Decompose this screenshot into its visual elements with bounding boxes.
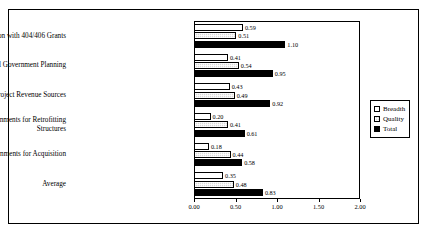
legend-item-quality: Quality xyxy=(374,114,405,124)
bar-value-label: 0.49 xyxy=(237,92,248,99)
bar-value-label: 0.41 xyxy=(230,121,241,128)
bar-quality xyxy=(194,32,236,39)
category-label: Financial Aid to Local Governments for A… xyxy=(0,150,66,159)
bar-total xyxy=(194,130,245,137)
bar-value-label: 0.41 xyxy=(230,54,241,61)
bar-breadth xyxy=(194,24,243,31)
legend-label-total: Total xyxy=(383,125,397,133)
x-axis-tick-label: 2.00 xyxy=(354,203,365,211)
bar-value-label: 0.43 xyxy=(232,83,243,90)
legend-item-total: Total xyxy=(374,124,405,134)
bar-value-label: 1.10 xyxy=(287,41,298,48)
bar-value-label: 0.48 xyxy=(236,181,247,188)
category-label: Average xyxy=(0,180,66,189)
category-label: Financial Aid to Local Governments for R… xyxy=(0,116,66,133)
x-axis-tick xyxy=(236,199,237,202)
legend-item-breadth: Breadth xyxy=(374,104,405,114)
bar-value-label: 0.18 xyxy=(211,143,222,150)
x-axis-tick-label: 1.50 xyxy=(313,203,324,211)
bar-breadth xyxy=(194,172,223,179)
bar-breadth xyxy=(194,83,230,90)
legend-swatch-quality xyxy=(374,116,380,122)
bar-value-label: 0.61 xyxy=(247,130,258,137)
legend-swatch-total xyxy=(374,126,380,132)
bar-value-label: 0.58 xyxy=(244,159,255,166)
x-axis-tick-label: 0.50 xyxy=(230,203,241,211)
x-axis-tick-label: 0.00 xyxy=(188,203,199,211)
chart-container: Finance Mitigation with 404/406 GrantsFi… xyxy=(8,9,419,224)
bar-value-label: 0.54 xyxy=(241,62,252,69)
category-label: Financial Aid for Local Government Plann… xyxy=(0,61,66,70)
x-axis-tick-label: 1.00 xyxy=(271,203,282,211)
bar-total xyxy=(194,41,285,48)
bar-total xyxy=(194,189,263,196)
category-label: Develop Planning and Project Revenue Sou… xyxy=(0,91,66,100)
bar-total xyxy=(194,100,270,107)
bar-quality xyxy=(194,92,235,99)
x-axis: 0.000.501.001.502.00 xyxy=(194,199,360,217)
bar-value-label: 0.92 xyxy=(272,100,283,107)
bar-quality xyxy=(194,121,228,128)
bar-value-label: 0.44 xyxy=(233,151,244,158)
bar-value-label: 0.95 xyxy=(275,70,286,77)
chart-legend: Breadth Quality Total xyxy=(370,100,410,138)
legend-label-quality: Quality xyxy=(383,115,404,123)
bar-breadth xyxy=(194,113,211,120)
bar-total xyxy=(194,70,273,77)
x-axis-tick xyxy=(194,199,195,202)
bar-value-label: 0.51 xyxy=(238,32,249,39)
bar-value-label: 0.59 xyxy=(245,24,256,31)
bar-value-label: 0.20 xyxy=(213,113,224,120)
bar-quality xyxy=(194,62,239,69)
legend-label-breadth: Breadth xyxy=(383,105,405,113)
bar-quality xyxy=(194,151,231,158)
bar-quality xyxy=(194,181,234,188)
category-label: Finance Mitigation with 404/406 Grants xyxy=(0,32,66,41)
bar-value-label: 0.83 xyxy=(265,189,276,196)
legend-swatch-breadth xyxy=(374,106,380,112)
bar-breadth xyxy=(194,54,228,61)
x-axis-tick xyxy=(277,199,278,202)
x-axis-tick xyxy=(360,199,361,202)
bar-value-label: 0.35 xyxy=(225,172,236,179)
x-axis-tick xyxy=(319,199,320,202)
bar-breadth xyxy=(194,143,209,150)
bar-total xyxy=(194,159,242,166)
